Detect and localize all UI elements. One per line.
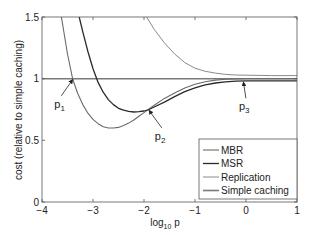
y-tick-label: 1: [33, 73, 39, 84]
y-tick-label: 1.5: [25, 12, 39, 23]
x-tick-label: 1: [294, 205, 300, 216]
legend-label: MSR: [221, 158, 243, 169]
line-chart: −4−3−2−10100.511.5 p1p2p3 MBRMSRReplicat…: [0, 0, 314, 235]
x-axis-label-sub: 10: [164, 223, 172, 230]
x-axis-label: log10 p: [150, 217, 180, 230]
legend-label: Simple caching: [221, 185, 289, 196]
x-tick-label: −3: [87, 205, 99, 216]
x-tick-label: −1: [189, 205, 201, 216]
y-tick-label: 0.5: [25, 135, 39, 146]
y-tick-label: 0: [33, 197, 39, 208]
x-axis-label-tail: p: [171, 217, 180, 228]
legend-label: MBR: [221, 145, 243, 156]
legend: MBRMSRReplicationSimple caching: [199, 139, 297, 199]
y-axis-label: cost (relative to simple caching): [13, 40, 24, 180]
x-tick-label: 0: [243, 205, 249, 216]
x-tick-label: −2: [138, 205, 150, 216]
legend-label: Replication: [221, 172, 270, 183]
x-axis-label-main: log: [150, 217, 163, 228]
